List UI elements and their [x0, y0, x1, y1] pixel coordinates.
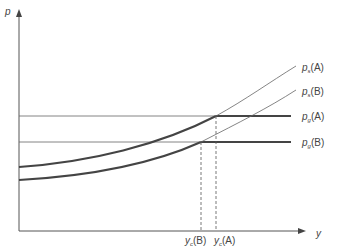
x-axis-label: y	[315, 228, 322, 239]
ps-A-curve-thick	[19, 116, 216, 167]
pg-B-label: pg(B)	[301, 137, 324, 149]
ps-B-label: ps(B)	[301, 86, 324, 98]
ps-A-curve-thin	[216, 66, 296, 116]
pg-A-label: pg(A)	[301, 111, 324, 123]
ps-B-curve-thick	[19, 142, 201, 180]
diagram-canvas: p y ps(A) ps(B) pg(A) pg(B) yc(B) yc(A)	[0, 0, 342, 251]
y-axis-arrow-icon	[16, 9, 22, 17]
ps-A-label: ps(A)	[301, 62, 324, 74]
yc-B-label: yc(B)	[184, 235, 206, 247]
yc-A-label: yc(A)	[213, 235, 235, 247]
x-axis-arrow-icon	[298, 228, 306, 234]
y-axis-label: p	[4, 6, 11, 17]
